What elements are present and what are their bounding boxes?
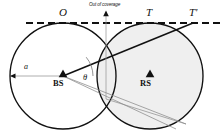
- point-t-label: T: [146, 7, 152, 18]
- out-of-coverage-arrow-head: [103, 11, 109, 17]
- base-station-label: BS: [53, 79, 64, 88]
- out-of-coverage-label: Out of coverage: [89, 3, 120, 8]
- angle-theta-label: θ: [83, 73, 87, 82]
- coverage-geometry-diagram: Out of coverage O T T' a θ BS RS: [0, 0, 221, 135]
- base-station-marker-icon: [59, 70, 68, 78]
- radius-arrow-head-left: [10, 73, 16, 78]
- point-t-prime-label: T': [189, 7, 197, 18]
- diagram-canvas: [0, 0, 221, 135]
- relay-station-label: RS: [140, 79, 151, 88]
- point-o-label: O: [59, 7, 67, 18]
- radius-label: a: [24, 63, 28, 71]
